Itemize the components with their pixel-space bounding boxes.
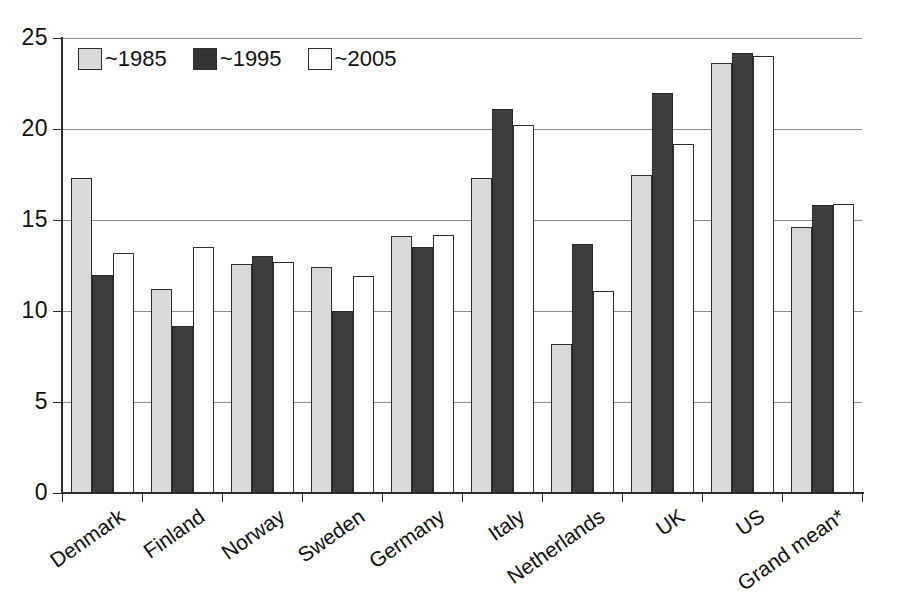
bar [332,311,353,493]
bar [71,178,92,493]
bar [273,262,294,493]
x-tick-mark-5 [462,494,463,502]
bar [433,235,454,493]
y-tick-label-5: 5 [35,390,48,413]
bar [652,93,673,493]
bar [471,178,492,493]
bar [593,291,614,493]
bar [492,109,513,493]
bar [311,267,332,493]
y-tick-label-25: 25 [21,26,48,49]
legend-swatch-icon [78,48,102,70]
bar [252,256,273,493]
x-tick-mark-1 [142,494,143,502]
x-category-label: Denmark [46,505,128,571]
x-tick-mark-end [862,494,863,502]
bar [231,264,252,493]
x-category-label: Norway [218,505,288,563]
legend-entry-1985: ~1985 [78,48,167,70]
legend-entry-1995: ~1995 [193,48,282,70]
x-tick-mark-9 [782,494,783,502]
bar [833,204,854,493]
legend-label: ~1995 [220,48,282,70]
bar [631,175,652,494]
legend-label: ~1985 [105,48,167,70]
x-category-label: UK [652,505,688,539]
legend-swatch-icon [193,48,217,70]
x-category-label: Sweden [294,505,368,566]
bar [673,144,694,493]
chart-legend: ~1985~1995~2005 [78,48,396,70]
x-tick-mark-6 [542,494,543,502]
bar [732,53,753,493]
x-category-label: US [732,505,768,539]
bar [791,227,812,493]
bar [812,205,833,493]
x-tick-mark-4 [382,494,383,502]
y-tick-label-20: 20 [21,117,48,140]
x-category-label: Germany [365,505,448,572]
bar [353,276,374,493]
x-tick-mark-7 [622,494,623,502]
bar [753,56,774,493]
x-category-label: Italy [484,505,528,544]
bar [412,247,433,493]
bar [711,63,732,493]
x-tick-mark-2 [222,494,223,502]
y-tick-label-10: 10 [21,299,48,322]
bar [551,344,572,493]
y-tick-label-15: 15 [21,208,48,231]
legend-entry-2005: ~2005 [308,48,397,70]
bar-chart-figure: 0510152025 ~1985~1995~2005 DenmarkFinlan… [0,0,899,608]
x-tick-mark-3 [302,494,303,502]
x-category-label: Finland [140,505,208,562]
y-axis-line [61,37,63,494]
gridline-25 [62,38,862,39]
bar [151,289,172,493]
x-tick-mark-8 [702,494,703,502]
legend-label: ~2005 [335,48,397,70]
x-tick-mark-0 [62,494,63,502]
legend-swatch-icon [308,48,332,70]
bar [193,247,214,493]
y-tick-label-0: 0 [35,481,48,504]
bar [391,236,412,493]
bar [92,275,113,493]
bar [113,253,134,493]
bar [172,326,193,493]
bar [513,125,534,493]
bar [572,244,593,493]
